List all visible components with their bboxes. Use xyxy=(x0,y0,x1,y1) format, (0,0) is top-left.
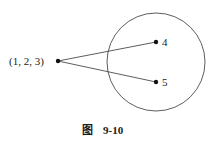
point-4-dot xyxy=(154,40,158,44)
source-point-label: (1, 2, 3) xyxy=(9,55,44,67)
point-5-label: 5 xyxy=(162,76,168,88)
figure-caption: 图9-10 xyxy=(82,121,123,137)
caption-number: 9-10 xyxy=(103,124,123,136)
point-4-label: 4 xyxy=(162,36,168,48)
point-5-dot xyxy=(154,80,158,84)
target-set-circle xyxy=(107,13,205,111)
caption-prefix: 图 xyxy=(82,124,93,136)
source-point-dot xyxy=(56,59,60,63)
